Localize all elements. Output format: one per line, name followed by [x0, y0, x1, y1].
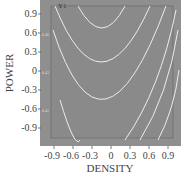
contour-label: 0.46 [42, 32, 49, 37]
y-tick-label: 0 [32, 65, 37, 76]
x-tick-label: 0.9 [162, 150, 175, 161]
y-tick-label: 0.9 [25, 8, 38, 19]
x-tick-label: 0.6 [143, 150, 156, 161]
y-tick-label: -0.6 [21, 103, 37, 114]
contour-label: 0.41 [42, 108, 49, 113]
y-tick-label: -0.3 [21, 84, 37, 95]
y-axis-title: POWER [3, 53, 15, 92]
x-tick-label: 0.3 [124, 150, 137, 161]
y-tick-label: 0.3 [25, 46, 38, 57]
y-tick-label: 0.6 [25, 27, 38, 38]
plot-frame [51, 6, 173, 138]
x-tick-label: 0 [109, 150, 114, 161]
y-tick-label: -0.9 [21, 122, 37, 133]
panel-label: Y1 [58, 2, 67, 10]
x-axis [54, 146, 168, 149]
x-tick-label: -0.6 [63, 150, 79, 161]
contour-label: 0.43 [42, 70, 49, 75]
x-tick-label: -0.9 [44, 150, 60, 161]
contour-chart: 0.46 0.43 0.41 Y1 0.9 0.6 0.3 0 -0.3 -0.… [0, 0, 183, 176]
x-axis-title: DENSITY [86, 162, 133, 174]
x-tick-label: -0.3 [82, 150, 98, 161]
